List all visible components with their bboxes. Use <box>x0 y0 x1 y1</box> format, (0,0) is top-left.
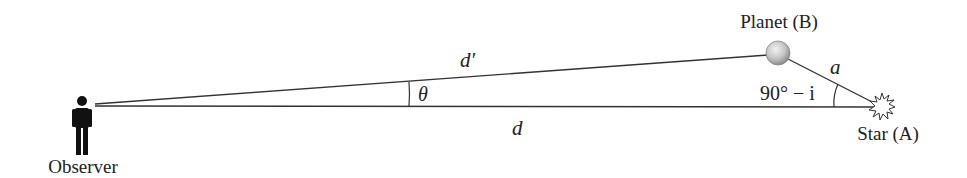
line-d-prime <box>95 55 768 104</box>
d-label: d <box>512 116 523 140</box>
theta-arc <box>409 82 410 106</box>
observer-label: Observer <box>48 156 118 177</box>
star-label: Star (A) <box>857 123 919 145</box>
theta-label: θ <box>418 83 428 105</box>
d-prime-label: d′ <box>460 48 476 72</box>
a-label: a <box>830 55 841 79</box>
inclination-arc <box>834 84 838 107</box>
planet-icon <box>766 41 790 65</box>
planet-label: Planet (B) <box>740 11 818 33</box>
parallax-diagram: Observer Planet (B) Star (A) d′ d a θ 90… <box>0 0 967 178</box>
line-d <box>95 106 876 107</box>
observer-icon <box>72 96 92 155</box>
angle-90-minus-i-label: 90° − i <box>760 82 815 104</box>
